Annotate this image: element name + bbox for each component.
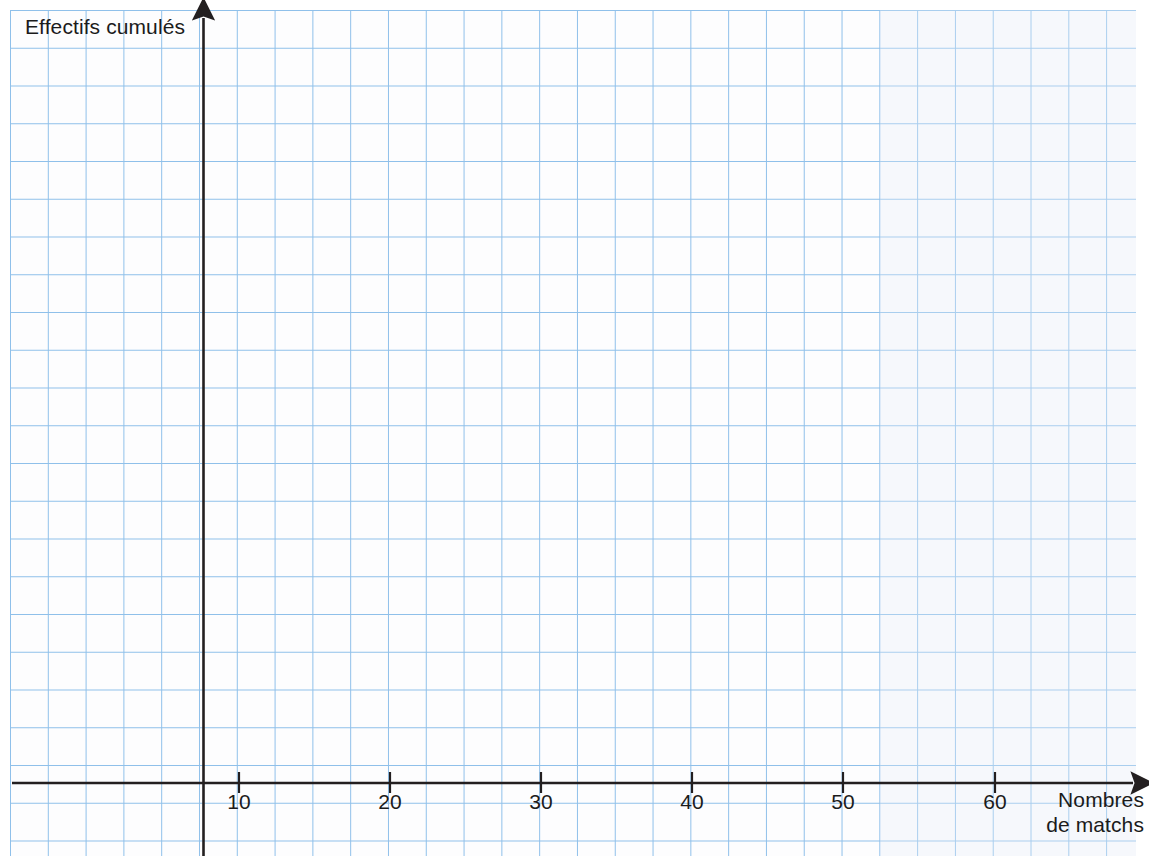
x-tick-label-30: 30 [511, 791, 571, 812]
x-tick-label-50: 50 [813, 791, 873, 812]
x-tick-label-60: 60 [965, 791, 1025, 812]
x-tick-label-40: 40 [662, 791, 722, 812]
x-axis-title: Nombres de matchs [1046, 787, 1144, 837]
x-tick-label-10: 10 [209, 791, 269, 812]
axes-group [0, 0, 1149, 868]
graph-paper-page: Effectifs cumulés Nombres de matchs 10 2… [0, 0, 1149, 868]
x-tick-label-20: 20 [360, 791, 420, 812]
x-axis-title-line1: Nombres [1058, 788, 1144, 811]
x-axis-title-line2: de matchs [1046, 812, 1144, 837]
y-axis-title: Effectifs cumulés [25, 14, 185, 39]
